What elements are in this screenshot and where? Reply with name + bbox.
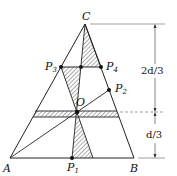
point-p3 <box>59 65 63 69</box>
arrow-up-icon <box>154 112 157 116</box>
dim-label-lower: d/3 <box>146 129 162 140</box>
label-a: A <box>2 162 11 175</box>
point-p2 <box>107 88 111 92</box>
point-p1 <box>70 156 74 160</box>
point-o <box>75 110 79 114</box>
triangle-diagram: C A B O P1 P2 P3 P4 2d/3 d/3 <box>0 0 177 176</box>
label-o: O <box>76 96 85 109</box>
point-mid <box>79 65 83 69</box>
label-p1: P1 <box>66 161 79 175</box>
segment-a-p2 <box>10 90 109 158</box>
label-b: B <box>129 162 138 175</box>
dim-label-upper: 2d/3 <box>141 65 164 76</box>
arrow-down-icon <box>154 154 157 158</box>
point-p4 <box>99 65 103 69</box>
arrow-down-icon <box>154 108 157 112</box>
arrow-up-icon <box>154 24 157 28</box>
label-c: C <box>82 10 91 23</box>
label-p4: P4 <box>105 60 118 74</box>
label-p2: P2 <box>114 82 127 96</box>
label-p3: P3 <box>44 60 57 74</box>
hatched-bottom-wedge <box>72 112 93 158</box>
